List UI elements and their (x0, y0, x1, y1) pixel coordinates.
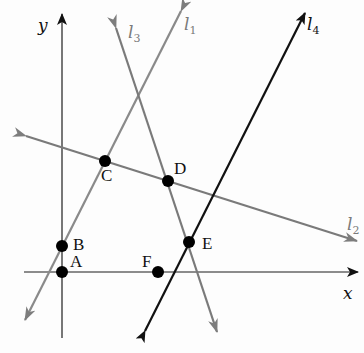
point-label-f: F (142, 253, 151, 270)
line-label-l4-subscript: 4 (312, 24, 319, 37)
point-label-c: C (101, 167, 112, 184)
x-axis-label: x (343, 285, 353, 302)
point-f (152, 266, 164, 278)
point-label-b: B (73, 236, 84, 253)
point-a (56, 266, 68, 278)
y-axis-label: y (38, 17, 48, 34)
line-label-l1: l1 (184, 16, 196, 36)
point-e (183, 236, 195, 248)
diagram-canvas: y x l3 l1 l4 l2 A B C D E F (0, 0, 364, 353)
line-l2 (26, 136, 357, 241)
line-label-l3-subscript: 3 (133, 32, 140, 45)
line-label-l1-subscript: 1 (189, 24, 196, 37)
line-label-l4: l4 (307, 16, 319, 36)
point-label-d: D (174, 160, 186, 177)
line-l4 (145, 13, 305, 331)
point-b (56, 240, 68, 252)
point-d (162, 175, 174, 187)
line-label-l2: l2 (347, 216, 359, 236)
point-label-e: E (202, 235, 212, 252)
line-label-l2-subscript: 2 (352, 224, 359, 237)
point-label-a: A (70, 253, 82, 270)
line-label-l3: l3 (128, 24, 140, 44)
